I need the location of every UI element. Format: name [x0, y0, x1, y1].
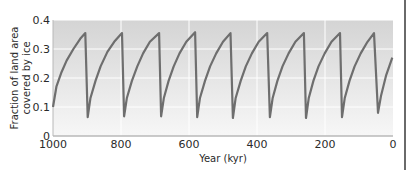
y-axis-label-line2: covered by ice	[21, 41, 32, 114]
ice-cover-chart: 00.10.20.30.4 10008006004002000 Year (ky…	[0, 0, 407, 170]
right-border-rule	[404, 0, 406, 170]
x-tick-label: 800	[111, 138, 132, 151]
x-tick-label: 200	[315, 138, 336, 151]
x-axis-label: Year (kyr)	[198, 153, 247, 164]
x-tick-label: 600	[179, 138, 200, 151]
x-tick-label: 400	[247, 138, 268, 151]
x-tick-labels: 10008006004002000	[39, 138, 397, 151]
y-tick-label: 0.4	[33, 14, 51, 27]
y-axis-label: Fraction of land area covered by ice	[9, 27, 32, 130]
x-tick-label: 0	[390, 138, 397, 151]
y-axis-label-line1: Fraction of land area	[9, 27, 20, 130]
y-tick-labels: 00.10.20.30.4	[33, 14, 51, 143]
y-tick-label: 0.2	[33, 72, 51, 85]
y-tick-label: 0.3	[33, 43, 51, 56]
y-tick-label: 0.1	[33, 101, 51, 114]
x-tick-label: 1000	[39, 138, 67, 151]
